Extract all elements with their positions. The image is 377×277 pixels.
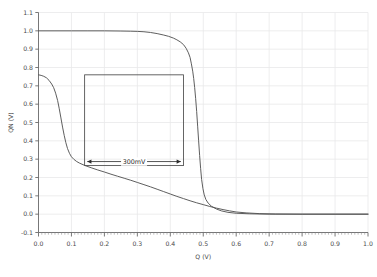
svg-text:0.5: 0.5: [198, 240, 208, 247]
chart-background: [0, 0, 377, 277]
svg-text:0.4: 0.4: [23, 137, 33, 144]
svg-text:1.1: 1.1: [23, 9, 33, 16]
svg-text:0.1: 0.1: [67, 240, 77, 247]
svg-text:0.8: 0.8: [23, 64, 33, 71]
svg-text:1.0: 1.0: [23, 27, 33, 34]
svg-text:0.9: 0.9: [330, 240, 340, 247]
svg-text:-0.1: -0.1: [21, 229, 33, 236]
svg-text:0.2: 0.2: [23, 174, 33, 181]
svg-text:0.4: 0.4: [165, 240, 175, 247]
chart-svg: -0.10.00.10.20.30.40.50.60.70.80.91.01.1…: [0, 0, 377, 277]
snm-label: 300mV: [123, 158, 146, 166]
svg-text:1.0: 1.0: [363, 240, 373, 247]
svg-text:0.7: 0.7: [264, 240, 274, 247]
svg-text:0.0: 0.0: [23, 210, 33, 217]
svg-text:0.0: 0.0: [34, 240, 44, 247]
svg-text:0.2: 0.2: [99, 240, 109, 247]
svg-text:0.7: 0.7: [23, 82, 33, 89]
svg-text:0.3: 0.3: [23, 155, 33, 162]
svg-text:0.6: 0.6: [23, 100, 33, 107]
svg-text:0.1: 0.1: [23, 192, 33, 199]
chart-figure: -0.10.00.10.20.30.40.50.60.70.80.91.01.1…: [0, 0, 377, 277]
svg-text:0.3: 0.3: [132, 240, 142, 247]
svg-text:0.8: 0.8: [297, 240, 307, 247]
svg-text:0.5: 0.5: [23, 119, 33, 126]
svg-text:0.9: 0.9: [23, 45, 33, 52]
y-axis-title: QN (V): [7, 112, 14, 133]
svg-text:0.6: 0.6: [231, 240, 241, 247]
x-axis-title: Q (V): [195, 253, 211, 260]
